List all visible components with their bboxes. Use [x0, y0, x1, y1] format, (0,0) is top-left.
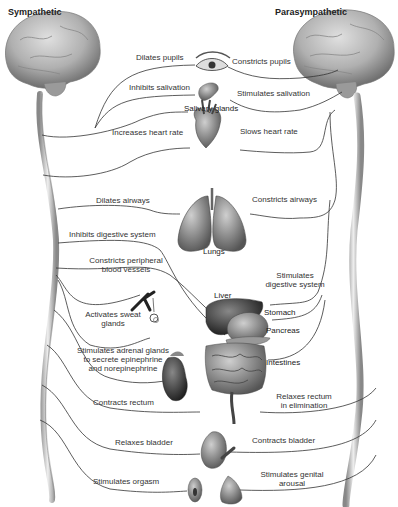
- para-stimulates-salivation: Stimulates salivation: [237, 89, 310, 98]
- organ-label-salivary: Salivary glands: [184, 104, 238, 113]
- sym-inhibits-digestive: Inhibits digestive system: [69, 230, 156, 239]
- lungs-icon: [178, 188, 246, 251]
- left-brain-icon: [5, 11, 100, 96]
- para-relaxes-rectum: Relaxes rectum in elimination: [268, 392, 340, 410]
- para-stimulates-digestive-line2: digestive system: [260, 280, 330, 289]
- organ-label-liver: Liver: [214, 291, 231, 300]
- parasympathetic-title: Parasympathetic: [275, 7, 347, 17]
- sym-relaxes-bladder: Relaxes bladder: [115, 438, 173, 447]
- bladder-icon: [201, 432, 234, 469]
- right-brain-icon: [293, 10, 394, 98]
- diagram-canvas: [0, 0, 398, 507]
- para-slows-heart-rate: Slows heart rate: [240, 127, 298, 136]
- organ-label-stomach: Stomach: [264, 308, 296, 317]
- organ-label-pancreas: Pancreas: [266, 326, 300, 335]
- sym-dilates-airways: Dilates airways: [96, 196, 150, 205]
- sym-constricts-vessels-line1: Constricts peripheral: [76, 256, 176, 265]
- para-stimulates-genital-line2: arousal: [252, 479, 332, 488]
- right-spinal-cord: [346, 96, 361, 505]
- sym-contracts-rectum: Contracts rectum: [93, 398, 154, 407]
- para-contracts-bladder: Contracts bladder: [252, 436, 315, 445]
- sympathetic-title: Sympathetic: [8, 7, 62, 17]
- sym-stimulates-adrenal-line1: Stimulates adrenal glands: [70, 346, 176, 355]
- para-relaxes-rectum-line2: in elimination: [268, 401, 340, 410]
- para-stimulates-digestive: Stimulates digestive system: [260, 271, 330, 289]
- sym-stimulates-adrenal-line3: and norepinephrine: [70, 364, 176, 373]
- eye-icon: [196, 52, 230, 71]
- sym-inhibits-salivation: Inhibits salivation: [129, 83, 190, 92]
- blood-vessels-icon: [132, 292, 154, 310]
- para-stimulates-genital: Stimulates genital arousal: [252, 470, 332, 488]
- sym-stimulates-adrenal: Stimulates adrenal glands to secrete epi…: [70, 346, 176, 373]
- male-genitals-icon: [220, 476, 242, 504]
- sym-stimulates-orgasm: Stimulates orgasm: [93, 477, 159, 486]
- female-genitals-icon: [188, 478, 202, 502]
- sym-increases-heart-rate: Increases heart rate: [112, 128, 183, 137]
- sym-dilates-pupils: Dilates pupils: [136, 53, 184, 62]
- para-constricts-pupils: Constricts pupils: [232, 57, 291, 66]
- sym-activates-sweat: Activates sweat glands: [78, 310, 148, 328]
- sym-constricts-vessels: Constricts peripheral blood vessels: [76, 256, 176, 274]
- organ-label-lungs: Lungs: [203, 247, 225, 256]
- para-relaxes-rectum-line1: Relaxes rectum: [268, 392, 340, 401]
- left-spinal-cord: [39, 94, 56, 500]
- sym-activates-sweat-line2: glands: [78, 319, 148, 328]
- para-constricts-airways: Constricts airways: [252, 195, 317, 204]
- sym-constricts-vessels-line2: blood vessels: [76, 265, 176, 274]
- intestines-icon: [205, 343, 266, 424]
- sym-activates-sweat-line1: Activates sweat: [78, 310, 148, 319]
- sym-stimulates-adrenal-line2: to secrete epinephrine: [70, 355, 176, 364]
- para-stimulates-genital-line1: Stimulates genital: [252, 470, 332, 479]
- salivary-glands-icon: [199, 83, 219, 100]
- organ-label-intestines: Intestines: [266, 358, 300, 367]
- para-stimulates-digestive-line1: Stimulates: [260, 271, 330, 280]
